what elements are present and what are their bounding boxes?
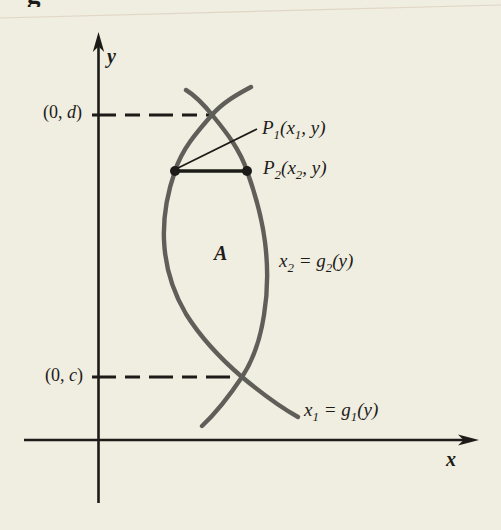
label-p2: P2(x2, y) (263, 158, 327, 179)
point-p2-dot (242, 166, 252, 176)
g2-part: = g (294, 250, 326, 271)
g1-part: = g (319, 399, 351, 420)
intercept-c-var: c (69, 365, 77, 385)
x-axis-label: x (446, 449, 456, 469)
g2-part: (y) (332, 250, 353, 271)
diagram-graphics (0, 0, 501, 530)
p1-part: , y) (301, 117, 325, 138)
label-p1: P1(x1, y) (262, 118, 326, 139)
caption-fragment-glyph: g (27, 0, 41, 7)
intercept-d-post: ) (76, 102, 82, 122)
intercept-c-post: ) (77, 365, 83, 385)
intercept-d-var: d (67, 102, 76, 122)
intercept-d-pre: (0, (43, 102, 67, 122)
region-a-label: A (214, 243, 227, 263)
p2-part: , y) (302, 157, 326, 178)
intercept-label-d: (0, d) (43, 103, 82, 121)
label-curve-g2: x2 = g2(y) (279, 251, 353, 272)
p2-part: P (263, 157, 275, 178)
p1-part: P (262, 117, 274, 138)
figure-canvas: g y x (0, d) (0, c) P1(x1, y) P2(x2, y) … (0, 0, 501, 530)
cropped-caption-text: g (25, 0, 51, 7)
y-axis-label: y (107, 46, 116, 66)
p1-part: (x (280, 117, 295, 138)
scan-artifact-line (0, 5, 501, 18)
intercept-c-pre: (0, (45, 365, 69, 385)
g1-part: (y) (357, 399, 378, 420)
label-curve-g1: x1 = g1(y) (304, 400, 378, 421)
p2-part: (x (281, 157, 296, 178)
intercept-label-c: (0, c) (45, 366, 83, 384)
